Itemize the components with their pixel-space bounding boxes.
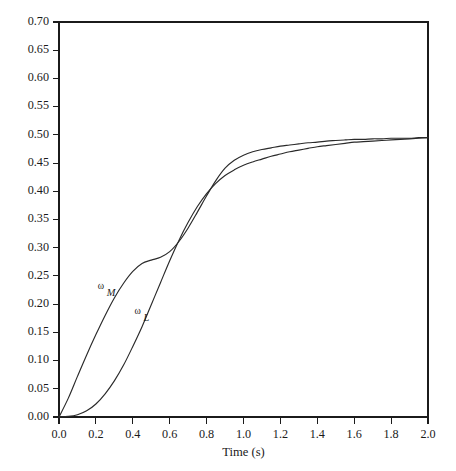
x-axis-title: Time (s) xyxy=(222,445,265,459)
omega-subscript-l: L xyxy=(143,312,150,323)
y-tick-label: 0.20 xyxy=(28,296,49,310)
y-tick-label: 0.00 xyxy=(28,409,49,423)
x-tick-label: 0.0 xyxy=(51,427,66,441)
y-tick-label: 0.15 xyxy=(28,324,49,338)
y-tick-label: 0.30 xyxy=(28,240,49,254)
x-tick-label: 1.4 xyxy=(310,427,325,441)
figure-background xyxy=(0,0,456,471)
x-tick-label: 2.0 xyxy=(420,427,435,441)
x-tick-label: 1.2 xyxy=(273,427,288,441)
x-tick-label: 0.6 xyxy=(162,427,177,441)
omega-subscript-m: M xyxy=(106,287,117,298)
y-tick-label: 0.55 xyxy=(28,98,49,112)
chart-figure: 0.000.050.100.150.200.250.300.350.400.45… xyxy=(0,0,456,471)
y-tick-label: 0.40 xyxy=(28,183,49,197)
y-tick-label: 0.65 xyxy=(28,42,49,56)
omega-symbol-m: ω xyxy=(98,280,104,291)
y-tick-label: 0.10 xyxy=(28,352,49,366)
x-tick-label: 0.2 xyxy=(88,427,103,441)
y-axis-tick-labels: 0.000.050.100.150.200.250.300.350.400.45… xyxy=(28,14,49,423)
x-tick-label: 0.4 xyxy=(125,427,140,441)
y-tick-label: 0.50 xyxy=(28,127,49,141)
x-tick-label: 1.8 xyxy=(383,427,398,441)
y-tick-label: 0.70 xyxy=(28,14,49,28)
y-tick-label: 0.05 xyxy=(28,381,49,395)
x-tick-label: 0.8 xyxy=(199,427,214,441)
omega-symbol-l: ω xyxy=(135,305,141,316)
x-tick-label: 1.0 xyxy=(236,427,251,441)
y-tick-label: 0.35 xyxy=(28,211,49,225)
y-tick-label: 0.25 xyxy=(28,268,49,282)
x-tick-label: 1.6 xyxy=(347,427,362,441)
y-tick-label: 0.60 xyxy=(28,70,49,84)
chart-canvas: 0.000.050.100.150.200.250.300.350.400.45… xyxy=(0,0,456,471)
y-tick-label: 0.45 xyxy=(28,155,49,169)
